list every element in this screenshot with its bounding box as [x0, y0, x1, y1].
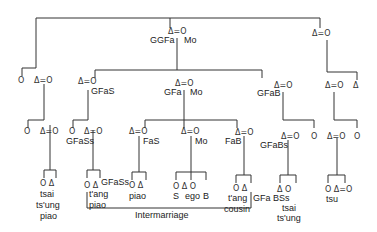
- right-gen3-couple-symbols: Δ=O: [327, 133, 345, 141]
- label-mo: Mo: [195, 136, 208, 146]
- label-tsung-1: ts'ung: [36, 200, 60, 210]
- gfass-female-symbol: O: [69, 128, 75, 136]
- label-gmo: Mo: [190, 87, 203, 97]
- label-piao-2: piao: [89, 200, 106, 210]
- piao-pair-symbols: O Δ: [129, 182, 143, 190]
- label-gfabss: GFa BSs: [253, 193, 290, 203]
- gfab-female-symbol: O: [311, 133, 317, 141]
- label-gfass-left: GFaSs: [66, 136, 94, 146]
- label-tang-1: t'ang: [89, 189, 108, 199]
- label-piao-1: piao: [40, 211, 57, 221]
- ego-sibling-symbols: O Δ O: [173, 183, 196, 191]
- label-tang-2: t'ang: [228, 193, 247, 203]
- tsai-pair-symbols: O Δ: [40, 180, 54, 188]
- fas-couple-symbols: Δ=O: [129, 128, 147, 136]
- label-ggfa: GGFa: [150, 35, 175, 45]
- label-b: B: [203, 191, 209, 201]
- label-s: S: [173, 191, 179, 201]
- right-gen3-female-symbol: O: [354, 133, 360, 141]
- label-cousin: cousin: [224, 204, 250, 214]
- cousin-pair-symbols: O Δ: [233, 185, 247, 193]
- right-couple2-symbols: Δ=O: [325, 82, 343, 90]
- gfas-gen3-couple-symbols: Δ=O: [84, 128, 102, 136]
- label-tsai-2: tsai: [282, 203, 296, 213]
- label-gfas: GFaS: [91, 86, 115, 96]
- label-ego: ego: [185, 191, 200, 201]
- label-gfa: GFa: [164, 87, 182, 97]
- label-fab: FaB: [225, 136, 242, 146]
- label-tsai-1: tsai: [40, 189, 54, 199]
- right-male-symbol: Δ: [353, 82, 358, 90]
- gfas-couple-symbols: Δ=O: [78, 78, 96, 86]
- tsu-pair-symbols: O Δ=O: [325, 186, 352, 194]
- label-piao-3: piao: [129, 191, 146, 201]
- left-gen3-female-symbol: O: [24, 128, 30, 136]
- label-intermarriage: Intermarriage: [135, 210, 189, 220]
- label-gfab: GFaB: [257, 88, 281, 98]
- mo-couple-symbols: Δ=O: [181, 128, 199, 136]
- label-tsung-2: ts'ung: [277, 213, 301, 223]
- label-fas: FaS: [143, 136, 160, 146]
- left-female-symbol: O: [18, 77, 24, 85]
- left-gen3-couple-symbols: Δ=O: [40, 128, 58, 136]
- right-couple-symbols: Δ=O: [312, 30, 330, 38]
- label-ggmo: Mo: [184, 35, 197, 45]
- label-gfabs: GFaBs: [260, 140, 288, 150]
- label-tsu: tsu: [326, 194, 338, 204]
- left-couple-symbols: Δ=O: [34, 77, 52, 85]
- label-gfass-mid: GFaSs: [101, 177, 129, 187]
